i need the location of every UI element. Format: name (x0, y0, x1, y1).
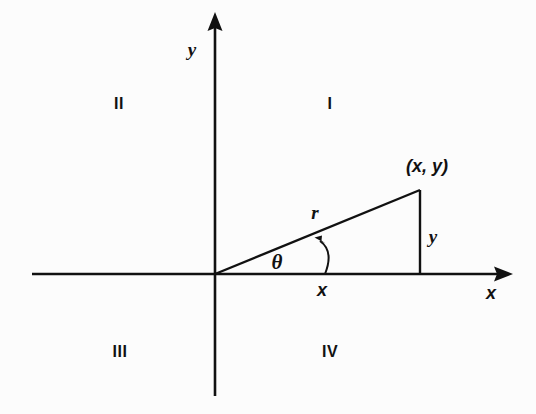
radius-label: r (311, 203, 318, 222)
x-axis-label: x (486, 284, 496, 302)
diagram-canvas (0, 0, 536, 414)
quadrant-label-iii: III (113, 344, 128, 360)
y-axis-label: y (188, 40, 196, 59)
quadrant-label-ii: II (114, 96, 124, 112)
opposite-leg-label: y (429, 227, 437, 246)
point-coordinates-label: (x, y) (406, 157, 448, 175)
angle-theta-label: θ (272, 252, 283, 273)
quadrant-label-iv: IV (322, 344, 338, 360)
quadrant-label-i: I (328, 96, 333, 112)
adjacent-leg-label: x (317, 281, 327, 299)
angle-arc (320, 241, 329, 274)
angle-arc-arrowhead (315, 236, 326, 244)
polar-coordinates-diagram: y x I II III IV (x, y) r θ x y (0, 0, 536, 414)
